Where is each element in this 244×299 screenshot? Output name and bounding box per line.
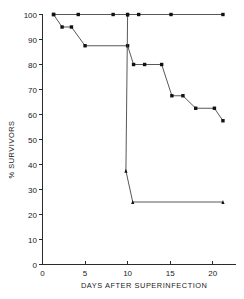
data-point-marker bbox=[169, 13, 172, 16]
data-point-marker bbox=[137, 13, 140, 16]
data-point-marker bbox=[221, 119, 224, 122]
y-tick-label: 70 bbox=[28, 86, 37, 95]
data-point-marker bbox=[70, 25, 73, 28]
data-point-marker bbox=[181, 94, 184, 97]
y-tick-label: 20 bbox=[28, 211, 37, 220]
y-tick-label: 90 bbox=[28, 36, 37, 45]
x-tick-label: 15 bbox=[166, 269, 175, 278]
data-point-marker bbox=[143, 63, 146, 66]
survival-curve-figure: 010203040506070809010005101520DAYS AFTER… bbox=[0, 0, 244, 299]
x-tick-label: 20 bbox=[208, 269, 217, 278]
data-point-marker bbox=[77, 13, 80, 16]
series-1 bbox=[52, 13, 225, 123]
chart-canvas: 010203040506070809010005101520DAYS AFTER… bbox=[0, 0, 244, 299]
y-tick-label: 100 bbox=[24, 11, 38, 20]
data-point-marker bbox=[221, 13, 224, 16]
data-point-marker bbox=[52, 13, 55, 16]
data-point-marker bbox=[194, 107, 197, 110]
y-axis-title: % SURVIVORS bbox=[7, 120, 16, 178]
y-tick-label: 40 bbox=[28, 161, 37, 170]
y-tick-label: 10 bbox=[28, 236, 37, 245]
series-0 bbox=[52, 13, 225, 16]
y-tick-label: 30 bbox=[28, 186, 37, 195]
data-point-marker bbox=[132, 63, 135, 66]
data-point-marker bbox=[170, 94, 173, 97]
data-point-marker bbox=[60, 25, 63, 28]
y-tick-label: 0 bbox=[33, 261, 38, 270]
data-point-marker bbox=[124, 169, 127, 173]
x-tick-label: 0 bbox=[40, 269, 45, 278]
data-point-marker bbox=[160, 63, 163, 66]
y-tick-label: 60 bbox=[28, 111, 37, 120]
data-point-marker bbox=[213, 107, 216, 110]
y-tick-label: 80 bbox=[28, 61, 37, 70]
series-line bbox=[54, 15, 223, 121]
y-tick-label: 50 bbox=[28, 136, 37, 145]
data-point-marker bbox=[83, 44, 86, 47]
x-tick-label: 5 bbox=[83, 269, 88, 278]
data-point-marker bbox=[111, 13, 114, 16]
x-tick-label: 10 bbox=[123, 269, 132, 278]
x-axis-title: DAYS AFTER SUPERINFECTION bbox=[81, 281, 208, 290]
